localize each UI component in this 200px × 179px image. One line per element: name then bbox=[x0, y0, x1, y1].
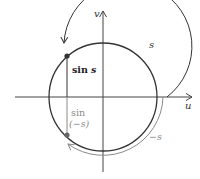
u-axis-label: u bbox=[185, 100, 191, 111]
sin-neg-s-arg-label: (−s) bbox=[69, 118, 90, 129]
unit-circle-diagram: v u sin s sin (−s) s −s bbox=[0, 0, 200, 179]
sin-s-arg: s bbox=[91, 64, 97, 75]
sin-neg-s-fn-label: sin bbox=[71, 107, 85, 118]
sin-s-fn: sin bbox=[72, 64, 88, 75]
arc-s-label: s bbox=[149, 39, 154, 50]
sin-s-label: sin s bbox=[72, 64, 97, 75]
arc-neg-s-label: −s bbox=[149, 131, 162, 142]
point-p bbox=[64, 53, 69, 58]
point-q bbox=[64, 132, 69, 137]
v-axis-label: v bbox=[94, 8, 100, 19]
